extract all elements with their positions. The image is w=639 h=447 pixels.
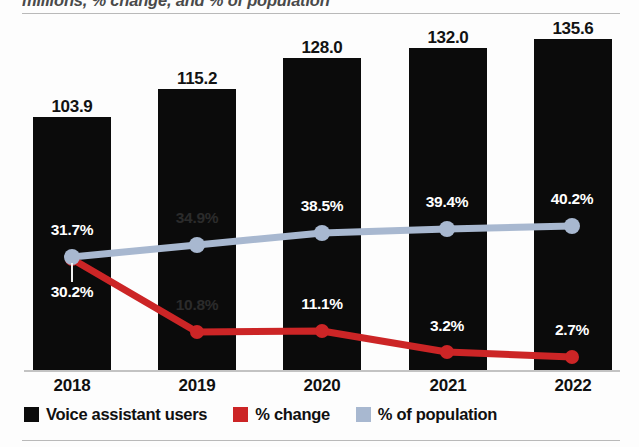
change-label-2019: 10.8%: [147, 296, 247, 314]
population-label-2020: 38.5%: [272, 197, 372, 215]
legend-label-population: % of population: [378, 405, 497, 424]
population-label-2022: 40.2%: [522, 190, 622, 208]
change-label-2018: 30.2%: [22, 283, 122, 301]
legend-label-voice-assistant-users: Voice assistant users: [46, 405, 207, 424]
legend-item-change: % change: [233, 405, 330, 424]
legend-swatch-voice-assistant-users: [24, 407, 39, 422]
legend-label-change: % change: [255, 405, 330, 424]
population-label-2018: 31.7%: [22, 221, 122, 239]
change-label-2021: 3.2%: [397, 317, 497, 335]
bar-2018: [33, 117, 111, 370]
chart-legend: Voice assistant users % change % of popu…: [24, 405, 523, 424]
x-tick-2020: 2020: [283, 376, 361, 396]
population-label-2019: 34.9%: [147, 209, 247, 227]
x-axis-line: [24, 370, 620, 372]
plot-area: 103.9 115.2 128.0 132.0 135.6: [0, 0, 639, 447]
voice-assistant-users-chart: millions, % change, and % of population …: [0, 0, 639, 447]
legend-swatch-change: [233, 407, 248, 422]
x-tick-2022: 2022: [534, 376, 612, 396]
bar-value-label-2020: 128.0: [283, 38, 361, 58]
change-label-2022: 2.7%: [522, 321, 622, 339]
legend-item-voice-assistant-users: Voice assistant users: [24, 405, 207, 424]
change-label-2020: 11.1%: [272, 295, 372, 313]
bar-2019: [158, 89, 236, 370]
legend-item-population: % of population: [356, 405, 497, 424]
population-label-2021: 39.4%: [397, 193, 497, 211]
bar-value-label-2018: 103.9: [33, 97, 111, 117]
x-tick-2019: 2019: [158, 376, 236, 396]
x-tick-2018: 2018: [33, 376, 111, 396]
bar-value-label-2022: 135.6: [534, 19, 612, 39]
bar-value-label-2019: 115.2: [158, 69, 236, 89]
x-tick-2021: 2021: [409, 376, 487, 396]
bar-value-label-2021: 132.0: [409, 28, 487, 48]
legend-swatch-population: [356, 407, 371, 422]
